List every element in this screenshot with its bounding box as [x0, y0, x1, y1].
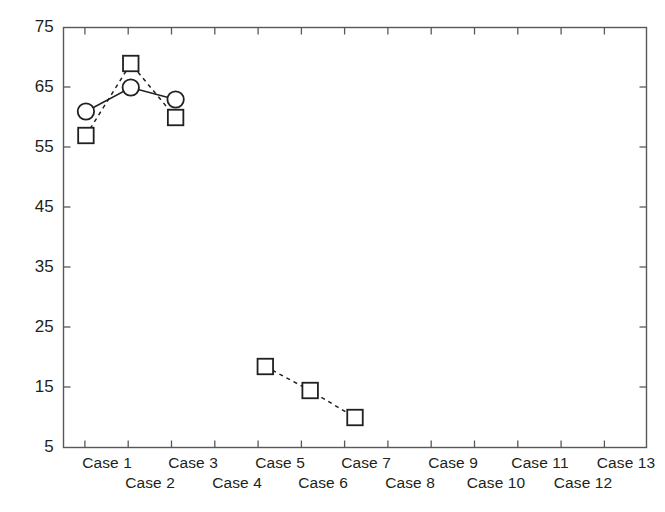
y-tick-label-25: 25	[8, 317, 54, 337]
data-point-square	[258, 359, 274, 375]
x-tick-label-case-7: Case 7	[341, 454, 391, 472]
x-tick-label-case-1: Case 1	[82, 454, 132, 472]
x-tick-label-case-2: Case 2	[125, 474, 175, 492]
axes-box	[64, 28, 647, 448]
data-point-square	[78, 128, 94, 144]
axes-frame	[64, 28, 647, 448]
x-tick-label-case-12: Case 12	[554, 474, 612, 492]
series-squares-lines	[86, 64, 355, 418]
x-tick-label-case-8: Case 8	[385, 474, 435, 492]
x-tick-label-case-10: Case 10	[467, 474, 525, 492]
series-squares-markers	[78, 56, 363, 426]
dashed-connector	[86, 64, 176, 136]
data-point-circle	[167, 91, 183, 107]
data-point-circle	[78, 103, 94, 119]
data-point-circle	[123, 79, 139, 95]
x-tick-label-case-13: Case 13	[597, 454, 655, 472]
y-tick-label-35: 35	[8, 257, 54, 277]
data-point-square	[168, 110, 184, 126]
chart-figure: 75 65 55 45 35 25 15 5 Case 1 Case 3 Cas…	[0, 0, 665, 512]
y-tick-label-45: 45	[8, 197, 54, 217]
y-tick-label-65: 65	[8, 77, 54, 97]
y-tick-label-5: 5	[8, 437, 54, 457]
y-tick-label-55: 55	[8, 137, 54, 157]
x-axis-ticks-bottom	[85, 441, 605, 448]
x-tick-label-case-4: Case 4	[212, 474, 262, 492]
x-tick-label-case-3: Case 3	[168, 454, 218, 472]
plot-area	[0, 0, 665, 512]
x-tick-label-case-6: Case 6	[298, 474, 348, 492]
y-axis-ticks-right	[640, 87, 647, 387]
y-axis-ticks	[64, 87, 71, 387]
data-point-square	[347, 410, 363, 426]
x-tick-label-case-9: Case 9	[428, 454, 478, 472]
data-point-square	[123, 56, 138, 72]
y-tick-label-15: 15	[8, 377, 54, 397]
x-axis-ticks-top	[85, 28, 605, 35]
x-tick-label-case-11: Case 11	[511, 454, 568, 472]
y-tick-label-75: 75	[8, 17, 54, 37]
x-tick-label-case-5: Case 5	[255, 454, 305, 472]
data-point-square	[302, 383, 318, 399]
